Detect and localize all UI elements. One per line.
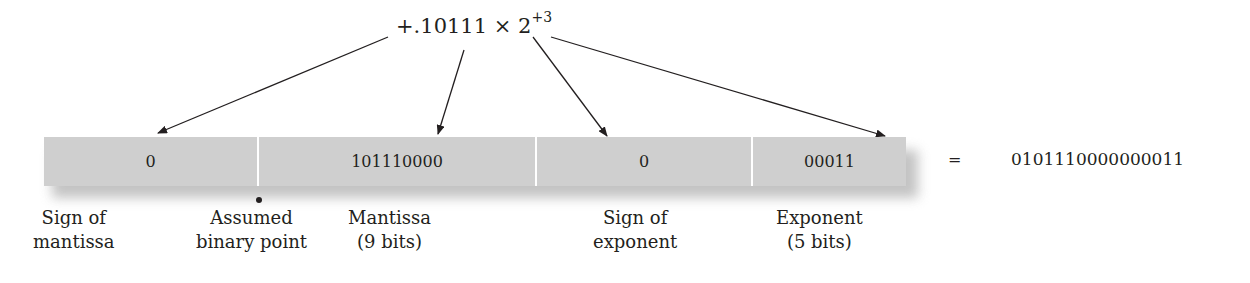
field-exponent: 00011	[753, 137, 906, 186]
bit-field-bar: 0 101110000 0 00011	[44, 137, 906, 186]
arrow-to-mantissa	[438, 50, 464, 134]
label-mantissa: Mantissa (9 bits)	[348, 206, 431, 254]
label-sign-of-mantissa: Sign of mantissa	[33, 206, 115, 254]
equals-sign: =	[948, 150, 961, 169]
binary-point-dot	[256, 197, 262, 203]
label-assumed-binary-point: Assumed binary point	[196, 206, 307, 254]
field-sign-of-mantissa: 0	[44, 137, 259, 186]
arrow-to-sign-of-mantissa	[158, 37, 388, 133]
label-sign-of-exponent: Sign of exponent	[593, 206, 677, 254]
binary-result: 0101110000000011	[1011, 149, 1184, 169]
field-sign-of-exponent: 0	[537, 137, 753, 186]
arrow-to-sign-of-exponent	[533, 37, 607, 136]
label-exponent: Exponent (5 bits)	[776, 206, 863, 254]
field-mantissa: 101110000	[259, 137, 537, 186]
arrow-to-exponent	[551, 37, 885, 136]
